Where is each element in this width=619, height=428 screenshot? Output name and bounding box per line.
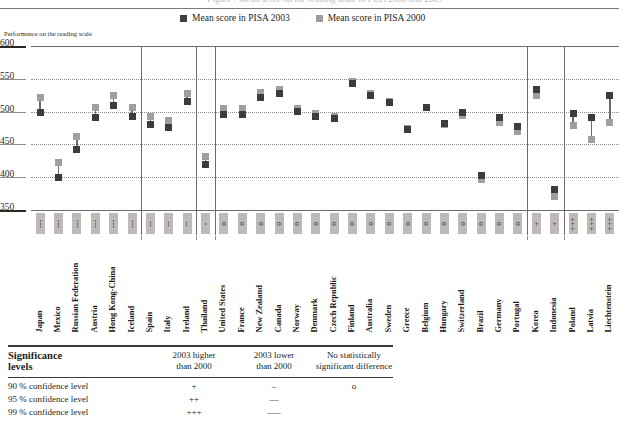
table-top-rule xyxy=(8,345,393,347)
significance-badge: -- xyxy=(183,213,192,234)
data-point-2003 xyxy=(386,99,393,106)
significance-badge: --- xyxy=(128,213,137,234)
data-point-2003 xyxy=(588,114,595,121)
significance-badge: o xyxy=(422,213,431,234)
data-point-2000 xyxy=(73,133,80,140)
significance-badge: o xyxy=(348,213,357,234)
significance-cell-higher-2: ++ xyxy=(155,394,233,404)
data-point-2003 xyxy=(129,113,136,120)
significance-badge-label: --- xyxy=(92,219,100,228)
significance-marker-row: -------------------------ooooooooooooooo… xyxy=(31,213,619,235)
significance-badge: o xyxy=(366,213,375,234)
data-point-2000 xyxy=(147,113,154,120)
significance-badge: -- xyxy=(146,213,155,234)
category-label-russian-federation: Russian Federation xyxy=(72,262,80,332)
axis-tick xyxy=(141,236,142,240)
significance-badge-label: o xyxy=(349,221,357,225)
significance-badge: +++ xyxy=(587,213,596,234)
significance-badge-label: -- xyxy=(147,221,155,227)
significance-cell-higher-1: + xyxy=(155,381,233,391)
column-header-line1: No statistically xyxy=(315,350,393,361)
data-point-2003 xyxy=(92,114,99,121)
data-point-2000 xyxy=(202,153,209,160)
category-label-korea: Korea xyxy=(531,310,539,332)
category-label-mexico: Mexico xyxy=(54,306,62,332)
significance-badge: o xyxy=(256,213,265,234)
y-axis-tick-underline-500 xyxy=(0,112,26,113)
significance-badge-label: --- xyxy=(36,219,44,228)
significance-badge-label: o xyxy=(514,221,522,225)
data-point-2003 xyxy=(73,146,80,153)
category-label-japan: Japan xyxy=(35,310,43,332)
data-point-2000 xyxy=(165,117,172,124)
gridline-550 xyxy=(31,79,619,80)
y-axis-tick-underline-400 xyxy=(0,177,26,178)
significance-badge-label: o xyxy=(404,221,412,225)
data-point-2003 xyxy=(441,120,448,127)
significance-badge: -- xyxy=(164,213,173,234)
significance-badge-label: o xyxy=(477,221,485,225)
axis-tick xyxy=(196,236,197,240)
significance-badge: o xyxy=(513,213,522,234)
gridline-600 xyxy=(31,46,619,47)
data-point-2000 xyxy=(37,94,44,101)
data-point-2003 xyxy=(349,80,356,87)
category-label-belgium: Belgium xyxy=(421,302,429,332)
data-point-2003 xyxy=(110,102,117,109)
data-point-2003 xyxy=(551,186,558,193)
data-point-2003 xyxy=(514,123,521,130)
axis-tick xyxy=(527,236,528,240)
group-separator xyxy=(215,46,216,235)
figure-root: Figure : Mean score on the reading scale… xyxy=(0,0,619,428)
data-point-2000 xyxy=(92,104,99,111)
category-label-thailand: Thailand xyxy=(201,299,209,332)
significance-badge-label: o xyxy=(496,221,504,225)
square-swatch-dark-icon xyxy=(180,15,187,22)
significance-badge: o xyxy=(458,213,467,234)
data-point-2000 xyxy=(551,193,558,200)
category-label-liechtenstein: Liechtenstein xyxy=(605,284,613,332)
data-point-2003 xyxy=(312,113,319,120)
category-label-poland: Poland xyxy=(568,307,576,332)
significance-table-column-header-1: 2003 higherthan 2000 xyxy=(155,350,233,372)
axis-tick xyxy=(564,236,565,240)
significance-cell-none-1: o xyxy=(315,381,393,391)
y-axis-tick-underline-350 xyxy=(0,210,26,212)
category-label-france: France xyxy=(237,307,245,332)
significance-badge: --- xyxy=(91,213,100,234)
category-label-ireland: Ireland xyxy=(182,306,190,332)
data-point-2003 xyxy=(55,174,62,181)
data-point-2003 xyxy=(184,98,191,105)
gridline-500 xyxy=(31,112,619,113)
significance-badge-label: -- xyxy=(183,221,191,227)
data-point-2003 xyxy=(423,104,430,111)
category-label-iceland: Iceland xyxy=(127,305,135,332)
significance-badge: - xyxy=(201,213,210,234)
significance-row-label-1: 90 % confidence level xyxy=(8,381,88,391)
category-label-portugal: Portugal xyxy=(513,301,521,332)
significance-cell-lower-1: – xyxy=(235,381,313,391)
category-label-new-zealand: New Zealand xyxy=(256,285,264,332)
category-label-greece: Greece xyxy=(403,307,411,332)
category-label-row: JapanMexicoRussian FederationAustriaHong… xyxy=(31,236,619,332)
significance-badge: --- xyxy=(36,213,45,234)
significance-badge: o xyxy=(293,213,302,234)
significance-badge: --- xyxy=(109,213,118,234)
significance-badge: o xyxy=(495,213,504,234)
column-header-line2: significant difference xyxy=(315,361,393,372)
data-point-2003 xyxy=(220,111,227,118)
significance-badge-label: o xyxy=(441,221,449,225)
category-label-switzerland: Switzerland xyxy=(458,289,466,332)
data-point-2000 xyxy=(606,119,613,126)
category-label-norway: Norway xyxy=(293,304,301,332)
significance-badge-label: o xyxy=(422,221,430,225)
data-point-2000 xyxy=(184,90,191,97)
category-label-finland: Finland xyxy=(348,304,356,332)
significance-badge-label: --- xyxy=(110,219,118,228)
category-label-sweden: Sweden xyxy=(384,305,392,332)
category-label-united-states: United States xyxy=(219,284,227,332)
y-axis-tick-underline-550 xyxy=(0,79,26,80)
data-point-2003 xyxy=(239,111,246,118)
significance-badge-label: o xyxy=(239,221,247,225)
category-label-czech-republic: Czech Republic xyxy=(329,276,337,332)
